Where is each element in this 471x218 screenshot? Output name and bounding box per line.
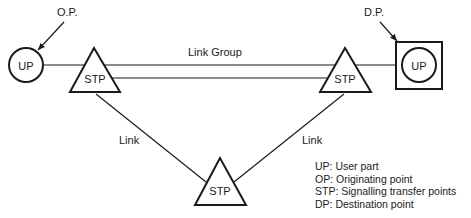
op-arrow (38, 22, 64, 50)
legend-item-up: UP: User part (315, 160, 456, 173)
dp-annotation: D.P. (364, 6, 384, 18)
link-left-line (96, 94, 206, 182)
legend-item-dp: DP: Destination point (315, 198, 456, 211)
dest-up-label: UP (411, 60, 426, 72)
stp-left-label: STP (84, 73, 105, 85)
stp-bottom-label: STP (209, 185, 230, 197)
dp-arrow (380, 22, 397, 41)
link-group-label: Link Group (188, 46, 242, 58)
link-left-label: Link (119, 134, 139, 146)
legend-item-stp: STP: Signalling transfer points (315, 185, 456, 198)
stp-bottom-triangle (195, 158, 246, 205)
legend-item-op: OP: Originating point (315, 173, 456, 186)
link-right-label: Link (302, 134, 322, 146)
stp-right-label: STP (334, 73, 355, 85)
stp-left-triangle (70, 48, 120, 92)
origin-up-label: UP (18, 60, 33, 72)
stp-right-triangle (320, 48, 371, 92)
op-annotation: O.P. (57, 6, 78, 18)
legend: UP: User part OP: Originating point STP:… (315, 160, 456, 210)
